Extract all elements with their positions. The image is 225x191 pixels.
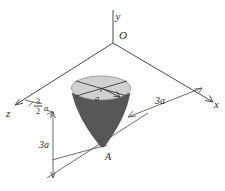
cone-body [72, 93, 130, 147]
z-dimension-unit: a [44, 103, 48, 113]
origin-label: O [119, 29, 127, 41]
z-dimension-numerator: 3 [36, 97, 40, 106]
y-axis-label: y [115, 10, 121, 22]
apex-reference-line [52, 145, 107, 160]
coordinate-cone-diagram: y O x z 3a 3a A a 3 2 a [0, 0, 225, 191]
depth-dimension-label: 3a [38, 139, 49, 150]
z-axis-label: z [5, 107, 11, 119]
z-dimension-arrow-to-axis [25, 100, 33, 106]
radius-label: a [95, 93, 99, 103]
figure-canvas: y O x z 3a 3a A a 3 2 a [0, 0, 225, 191]
x-dimension-line [128, 88, 202, 117]
apex-label: A [104, 151, 112, 162]
x-axis-label: x [213, 98, 219, 110]
z-dimension-label: 3 2 a [34, 97, 48, 116]
x-dimension-label: 3a [154, 95, 165, 106]
z-dimension-denominator: 2 [36, 107, 40, 116]
